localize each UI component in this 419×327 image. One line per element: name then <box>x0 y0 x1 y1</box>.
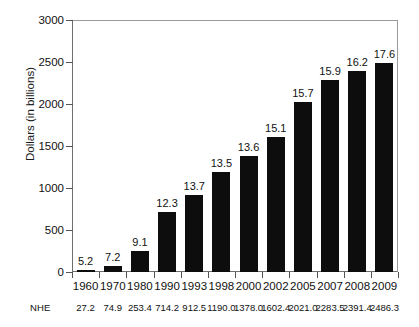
x-axis-tick-label: 2008 <box>344 280 370 292</box>
bar-value-label: 13.6 <box>238 141 259 153</box>
nhe-value: 253.4 <box>128 302 152 313</box>
bar <box>77 270 95 272</box>
x-axis-tick <box>181 272 182 278</box>
x-axis-tick <box>72 272 73 278</box>
bar <box>240 156 258 272</box>
nhe-value: 714.2 <box>155 302 179 313</box>
bar <box>267 137 285 272</box>
x-axis-tick-label: 1993 <box>181 280 207 292</box>
y-axis-title: Dollars (in billions) <box>24 24 36 204</box>
x-axis-tick-label: 2002 <box>263 280 289 292</box>
y-axis-tick-label: 3000 <box>2 14 64 26</box>
bar <box>131 251 149 272</box>
bar-value-label: 7.2 <box>105 251 120 263</box>
bar <box>212 172 230 272</box>
y-axis-tick-label: 2500 <box>2 56 64 68</box>
x-axis-tick-label: 2007 <box>317 280 343 292</box>
nhe-value: 1378.0 <box>234 302 263 313</box>
bar-value-label: 16.2 <box>347 56 368 68</box>
bar-value-label: 5.2 <box>78 255 93 267</box>
y-axis-tick-label: 2000 <box>2 98 64 110</box>
x-axis-tick <box>99 272 100 278</box>
x-axis-tick <box>317 272 318 278</box>
bar-value-label: 15.9 <box>319 65 340 77</box>
x-axis-tick-label: 1960 <box>73 280 99 292</box>
x-axis-tick <box>235 272 236 278</box>
bar <box>294 102 312 272</box>
x-axis-tick-label: 1990 <box>154 280 180 292</box>
y-axis-tick-label: 1500 <box>2 140 64 152</box>
nhe-value: 74.9 <box>104 302 123 313</box>
x-axis-tick-label: 2005 <box>290 280 316 292</box>
x-axis-tick <box>262 272 263 278</box>
bar-value-label: 12.3 <box>156 197 177 209</box>
y-axis-tick-label: 0 <box>2 266 64 278</box>
bar-value-label: 15.7 <box>292 87 313 99</box>
x-axis-tick <box>344 272 345 278</box>
bar <box>348 71 366 272</box>
y-axis-tick-label: 500 <box>2 224 64 236</box>
bar <box>158 212 176 272</box>
nhe-value: 1602.4 <box>261 302 290 313</box>
bar-value-label: 15.1 <box>265 122 286 134</box>
x-axis-tick <box>126 272 127 278</box>
bar-value-label: 17.6 <box>374 48 395 60</box>
bar <box>104 266 122 272</box>
nhe-value: 912.5 <box>182 302 206 313</box>
bar <box>185 195 203 272</box>
bar-chart: Dollars (in billions) 050010001500200025… <box>0 0 419 327</box>
x-axis-tick-label: 1998 <box>209 280 235 292</box>
bar-value-label: 9.1 <box>132 236 147 248</box>
nhe-value: 2391.4 <box>343 302 372 313</box>
x-axis-tick <box>371 272 372 278</box>
x-axis-tick-label: 2000 <box>236 280 262 292</box>
x-axis-tick <box>289 272 290 278</box>
nhe-value: 2486.3 <box>370 302 399 313</box>
bar <box>375 63 393 272</box>
nhe-row-label: NHE <box>30 302 51 313</box>
x-axis-tick <box>208 272 209 278</box>
x-axis-tick <box>398 272 399 278</box>
x-axis-tick-label: 1970 <box>100 280 126 292</box>
x-axis-tick <box>154 272 155 278</box>
x-axis-tick-label: 2009 <box>372 280 398 292</box>
bar-value-label: 13.5 <box>211 157 232 169</box>
bar-value-label: 13.7 <box>184 180 205 192</box>
nhe-value: 2283.5 <box>316 302 345 313</box>
nhe-value: 1190.0 <box>207 302 235 313</box>
nhe-value: 2021.0 <box>288 302 317 313</box>
x-axis-tick-label: 1980 <box>127 280 153 292</box>
bar <box>321 80 339 272</box>
nhe-value: 27.2 <box>76 302 95 313</box>
y-axis-tick-label: 1000 <box>2 182 64 194</box>
